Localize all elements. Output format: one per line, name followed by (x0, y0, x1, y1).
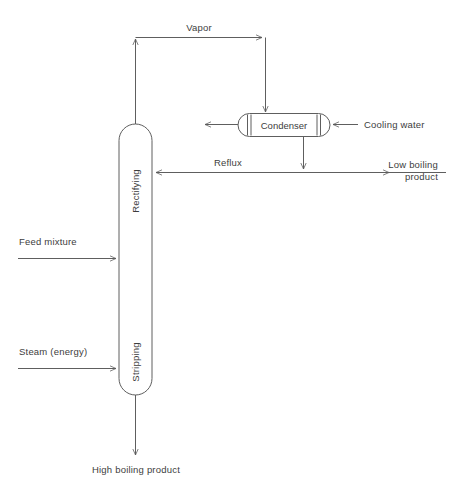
cooling-water-label: Cooling water (364, 119, 425, 130)
high-boiling-product-label: High boiling product (92, 464, 180, 475)
reflux-label: Reflux (214, 157, 242, 168)
column-section-label-stripping: Stripping (130, 342, 141, 381)
feed-mixture-label: Feed mixture (19, 236, 77, 247)
condenser-label: Condenser (261, 120, 307, 131)
column-section-label-rectifying: Rectifying (130, 169, 141, 213)
steam-energy-label: Steam (energy) (19, 346, 87, 357)
vapor-label: Vapor (186, 22, 212, 33)
low-boiling-product-label-line2: product (405, 171, 438, 182)
low-boiling-product-label-line1: Low boiling (388, 159, 438, 170)
flowsheet-canvas: Rectifying Stripping Vapor Condenser (0, 0, 454, 500)
distillation-column-diagram: Rectifying Stripping Vapor Condenser (0, 0, 454, 500)
vapor-stream (136, 38, 266, 125)
